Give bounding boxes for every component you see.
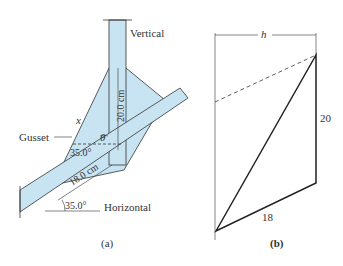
label-side-18: 18 [262, 211, 274, 223]
panel-b: h 20 18 (b) [215, 28, 332, 250]
label-vertical: Vertical [130, 27, 164, 39]
label-horizontal: Horizontal [104, 201, 151, 213]
vector-triangle [216, 55, 316, 231]
label-x: x [75, 114, 81, 126]
label-theta: θ [100, 131, 106, 143]
label-gusset: Gusset [19, 131, 49, 143]
panel-a: Vertical Horizontal Gusset x θ 20.0 cm 1… [19, 20, 188, 250]
label-dim-vertical: 20.0 cm [115, 90, 126, 122]
caption-a: (a) [101, 237, 114, 250]
label-h: h [261, 28, 267, 40]
caption-b: (b) [270, 237, 284, 250]
label-angle-inner: 35.0° [70, 147, 92, 158]
label-side-20: 20 [320, 112, 332, 124]
gusset-diagram: Vertical Horizontal Gusset x θ 20.0 cm 1… [0, 0, 343, 266]
label-angle-outer: 35.0° [65, 200, 87, 211]
